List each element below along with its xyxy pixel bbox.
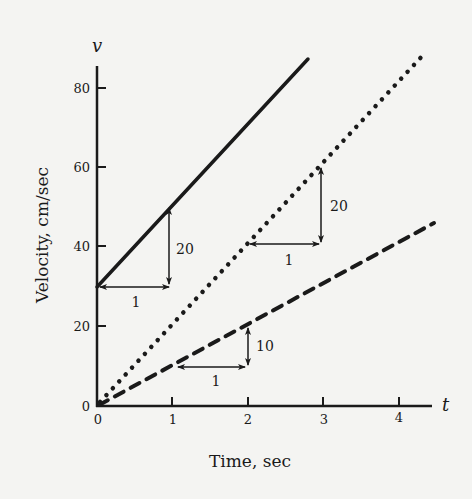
x-tick-label-4: 4 <box>395 410 403 425</box>
y-tick-label-80: 80 <box>73 81 90 96</box>
x-tick-label-1: 1 <box>169 412 177 427</box>
series-solid <box>97 59 308 287</box>
run-label: 1 <box>132 294 141 310</box>
x-axis-title: Time, sec <box>209 451 291 471</box>
slope-triangle-dotted: 1 20 <box>250 168 348 268</box>
velocity-time-chart: 0 20 40 60 80 0 1 2 3 4 v t Time, sec Ve… <box>0 0 472 499</box>
run-label: 1 <box>212 373 221 389</box>
y-tick-label-40: 40 <box>73 239 90 254</box>
y-tick-labels: 0 20 40 60 80 <box>73 81 90 414</box>
slope-triangle-solid: 1 20 <box>100 208 194 310</box>
y-tick-label-60: 60 <box>73 160 90 175</box>
y-axis-title: Velocity, cm/sec <box>32 167 52 304</box>
x-tick-label-3: 3 <box>320 412 328 427</box>
x-axis-symbol: t <box>442 394 450 415</box>
x-tick-labels: 0 1 2 3 4 <box>94 410 403 427</box>
x-tick-label-2: 2 <box>244 412 252 427</box>
rise-label: 20 <box>176 241 194 257</box>
y-tick-label-0: 0 <box>82 399 90 414</box>
x-tick-label-0: 0 <box>94 412 102 427</box>
series-dashed <box>99 223 434 405</box>
y-axis-symbol: v <box>92 35 102 56</box>
rise-label: 10 <box>256 338 274 354</box>
rise-label: 20 <box>330 198 348 214</box>
y-tick-label-20: 20 <box>73 319 90 334</box>
axes <box>96 66 432 407</box>
run-label: 1 <box>285 252 294 268</box>
